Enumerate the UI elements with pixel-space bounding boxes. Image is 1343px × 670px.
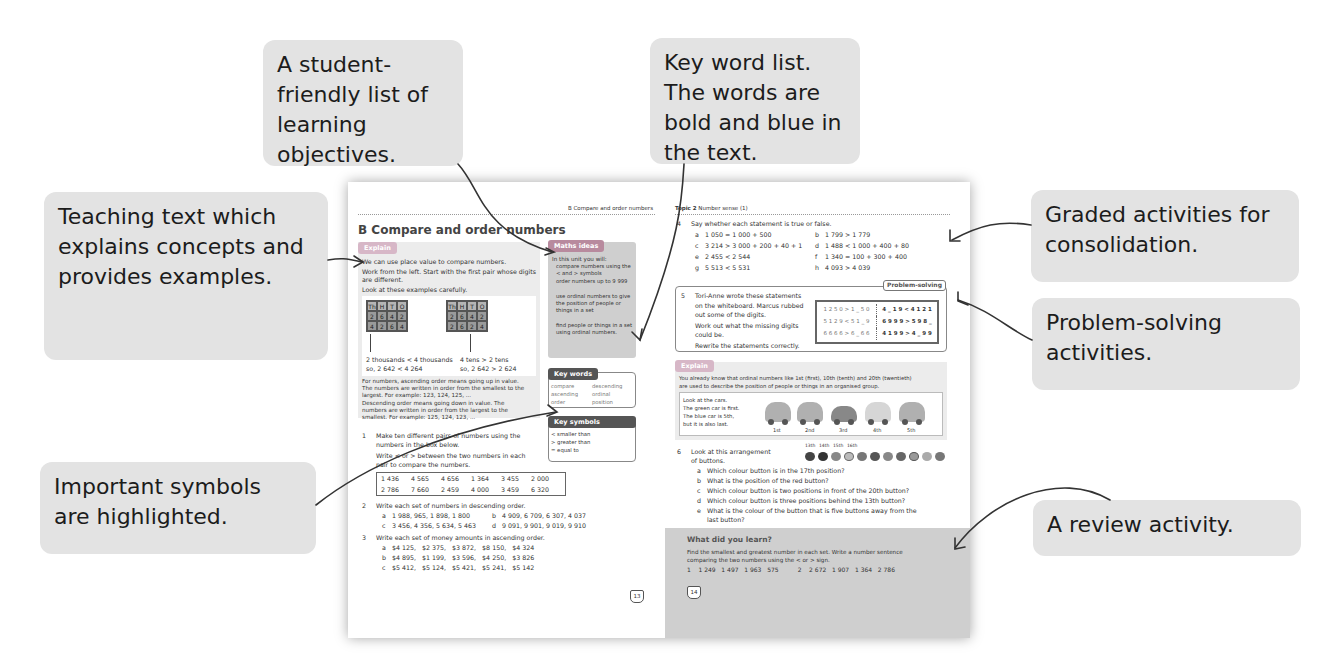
button-icon bbox=[805, 452, 815, 461]
ascending-text: For numbers, ascending order means going… bbox=[362, 378, 519, 385]
part-label: c bbox=[382, 522, 385, 531]
comparison-1-result: so, 2 642 < 4 264 bbox=[366, 365, 422, 374]
descending-text: smallest. For example: 125, 124, 123, ..… bbox=[362, 414, 475, 421]
callout-problem-solving: Problem-solving activities. bbox=[1032, 298, 1300, 390]
maths-ideas-item: use ordinal numbers to give the position… bbox=[556, 293, 634, 314]
part-text: 3 214 > 3 000 + 200 + 40 + 1 bbox=[705, 242, 802, 251]
part-text: What is the position of the red button? bbox=[707, 477, 829, 486]
question-number: 3 bbox=[362, 534, 366, 543]
question-number: 6 bbox=[677, 448, 681, 457]
part-text: 1 799 > 1 779 bbox=[825, 231, 870, 240]
page-number: 14 bbox=[687, 586, 701, 599]
car-position-label: 4th bbox=[873, 426, 881, 435]
question-4-prompt: Say whether each statement is true or fa… bbox=[691, 220, 832, 229]
part-label: d bbox=[492, 522, 496, 531]
review-title: What did you learn? bbox=[687, 536, 772, 545]
whiteboard: 1 2 5 0 > 1 _ 5 04 _ 1 9 < 4 1 2 1 5 1 2… bbox=[815, 300, 939, 344]
ascending-text: largest. For example: 123, 124, 125, ... bbox=[362, 392, 471, 399]
button-icon bbox=[896, 452, 906, 461]
button-icon bbox=[844, 452, 854, 461]
part-text: 1 988, 965, 1 898, 1 800 bbox=[392, 512, 470, 521]
explain-tag: Explain bbox=[358, 242, 397, 254]
callout-review-activity: A review activity. bbox=[1033, 500, 1301, 556]
button-icon bbox=[857, 452, 867, 461]
question-number: 1 bbox=[362, 432, 366, 441]
part-label: b bbox=[492, 512, 496, 521]
part-label: a bbox=[697, 467, 701, 476]
comparison-1: 2 thousands < 4 thousands bbox=[366, 356, 453, 365]
right-page: Topic 2 Number sense (1) 4 Say whether e… bbox=[665, 182, 970, 638]
down-arrow-icon bbox=[370, 334, 371, 352]
button-label: 15th bbox=[833, 442, 843, 451]
key-symbol: = equal to bbox=[551, 446, 579, 455]
place-value-table-2: ThHTO 2642 2624 bbox=[446, 300, 488, 332]
cars-text: but it is also last. bbox=[683, 420, 728, 429]
part-text: 9 091, 9 901, 9 019, 9 910 bbox=[502, 522, 586, 531]
question-1-text: Write < or > between the two numbers in … bbox=[376, 452, 525, 461]
question-5-text: Rewrite the statements correctly. bbox=[695, 342, 799, 351]
key-word: order bbox=[551, 398, 565, 407]
part-text: 4 093 > 4 039 bbox=[825, 264, 870, 273]
part-text: Which colour button is three positions b… bbox=[707, 497, 905, 506]
question-5-text: on the whiteboard. Marcus rubbed bbox=[695, 302, 804, 311]
part-label: b bbox=[382, 554, 386, 563]
part-label: c bbox=[382, 564, 385, 573]
question-5-text: out some of the digits. bbox=[695, 311, 766, 320]
key-word: position bbox=[592, 398, 613, 407]
question-1-text: Make ten different pairs of numbers usin… bbox=[376, 432, 520, 441]
button-icon bbox=[831, 452, 841, 461]
question-5-text: could be. bbox=[695, 331, 724, 340]
callout-learning-objectives: A student-friendly list of learning obje… bbox=[263, 40, 463, 166]
running-head: B Compare and order numbers bbox=[568, 204, 653, 213]
part-text: $5 412, $5 124, $5 421, $5 241, $5 142 bbox=[392, 564, 534, 573]
car-position-label: 5th bbox=[907, 426, 915, 435]
car-position-label: 3rd bbox=[839, 426, 847, 435]
topic-label: Topic 2 bbox=[675, 205, 697, 211]
explain-line: We can use place value to compare number… bbox=[362, 258, 506, 267]
question-1-text: numbers in the box below. bbox=[376, 441, 459, 450]
question-3-prompt: Write each set of money amounts in ascen… bbox=[376, 534, 545, 543]
question-6-text: Look at this arrangement bbox=[691, 448, 771, 457]
descending-text: numbers are written in order from the la… bbox=[362, 407, 508, 414]
part-text: last button? bbox=[707, 516, 744, 525]
maths-ideas-item: order numbers up to 9 999 bbox=[556, 278, 634, 285]
down-arrow-icon bbox=[470, 334, 471, 352]
maths-ideas-item: find people or things in a set using ord… bbox=[556, 322, 634, 336]
button-icon bbox=[909, 452, 919, 461]
part-label: e bbox=[695, 253, 699, 262]
part-label: c bbox=[697, 487, 700, 496]
explain-line: Look at these examples carefully. bbox=[362, 286, 467, 295]
part-label: b bbox=[815, 231, 819, 240]
key-words-tag: Key words bbox=[548, 368, 598, 380]
button-label: 13th bbox=[805, 442, 815, 451]
part-text: 1 488 < 1 000 + 400 + 80 bbox=[825, 242, 909, 251]
question-6-text: of buttons. bbox=[691, 457, 725, 466]
question-5-text: Tori-Anne wrote these statements bbox=[695, 292, 801, 301]
car-position-label: 2nd bbox=[805, 426, 815, 435]
review-text: comparing the two numbers using the < or… bbox=[687, 556, 830, 565]
part-text: $4 895, $1 199, $3 596, $4 250, $3 826 bbox=[392, 554, 534, 563]
part-text: 1 340 = 100 + 300 + 400 bbox=[825, 253, 907, 262]
part-label: c bbox=[695, 242, 698, 251]
question-5-text: Work out what the missing digits bbox=[695, 322, 799, 331]
page-number: 13 bbox=[630, 590, 644, 603]
callout-key-word-list: Key word list. The words are bold and bl… bbox=[650, 38, 860, 164]
ascending-text: The numbers are written in order from th… bbox=[362, 385, 524, 392]
question-number: 4 bbox=[677, 220, 681, 229]
explain-line: are used to describe the position of peo… bbox=[679, 382, 879, 391]
button-icon bbox=[883, 452, 893, 461]
car-icon bbox=[865, 402, 891, 422]
car-icon bbox=[797, 402, 823, 422]
question-2-prompt: Write each set of numbers in descending … bbox=[376, 502, 526, 511]
callout-graded-activities: Graded activities for consolidation. bbox=[1031, 190, 1299, 282]
part-text: Which colour button is in the 17th posit… bbox=[707, 467, 845, 476]
part-text: 5 513 < 5 531 bbox=[705, 264, 750, 273]
button-icon bbox=[818, 452, 828, 461]
car-icon bbox=[831, 406, 857, 422]
part-label: a bbox=[382, 512, 386, 521]
explain-tag: Explain bbox=[675, 360, 714, 372]
car-icon bbox=[899, 402, 925, 422]
button-label: 14th bbox=[819, 442, 829, 451]
part-label: b bbox=[697, 477, 701, 486]
part-text: Which colour button is two positions in … bbox=[707, 487, 909, 496]
